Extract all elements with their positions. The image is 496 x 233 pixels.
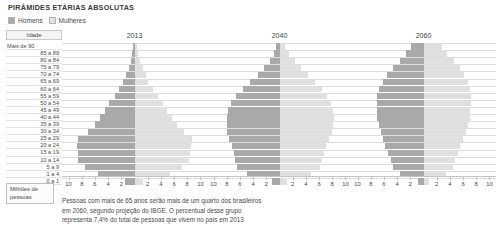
- bar-men: [227, 129, 279, 135]
- bar-women: [135, 136, 192, 142]
- men-half: [351, 114, 424, 121]
- legend-item-men: Homens: [8, 17, 43, 24]
- age-axis-header: Idade: [6, 30, 62, 40]
- women-half: [424, 128, 496, 135]
- bar-women: [135, 107, 168, 113]
- bar-men: [232, 143, 279, 149]
- bar-men: [391, 157, 424, 163]
- axis-tick-label: 10: [197, 181, 203, 187]
- women-half: [424, 100, 496, 107]
- bar-women: [424, 150, 458, 156]
- women-half: [424, 150, 496, 157]
- women-half: [424, 79, 496, 86]
- bar-women: [280, 150, 324, 156]
- women-half: [424, 107, 496, 114]
- men-half: [62, 79, 135, 86]
- axis-tick-label: 4: [159, 181, 162, 187]
- bar-men: [383, 136, 424, 142]
- men-half: [62, 128, 135, 135]
- pyramid-row: [62, 128, 207, 135]
- bar-women: [135, 164, 182, 170]
- men-half: [62, 43, 135, 50]
- bar-women: [280, 121, 333, 127]
- legend-label-women: Mulheres: [59, 17, 86, 24]
- pyramid-row: [62, 86, 207, 93]
- bar-women: [135, 157, 190, 163]
- pyramid-row: [351, 164, 496, 171]
- pyramid-row: [62, 135, 207, 142]
- bar-women: [424, 100, 471, 106]
- women-half: [424, 121, 496, 128]
- pyramid-row: [351, 86, 496, 93]
- bar-women: [280, 164, 321, 170]
- pyramid-row: [207, 50, 352, 57]
- women-half: [280, 157, 353, 164]
- pyramid-row: [351, 64, 496, 71]
- women-half: [280, 114, 353, 121]
- pyramid-row: [62, 79, 207, 86]
- pyramid-row: [62, 50, 207, 57]
- pyramid-row: [207, 71, 352, 78]
- bar-women: [280, 129, 332, 135]
- bar-women: [280, 72, 308, 78]
- men-half: [207, 164, 280, 171]
- axis-tick-label: 8: [225, 181, 228, 187]
- axis-tick-label: 6: [93, 181, 96, 187]
- caption-line-1: Pessoas com mais de 65 anos serão mais d…: [62, 196, 362, 206]
- women-half: [135, 43, 208, 50]
- legend: Homens Mulheres: [8, 17, 86, 24]
- pyramid-row: [62, 142, 207, 149]
- bar-women: [135, 93, 158, 99]
- legend-item-women: Mulheres: [49, 17, 86, 24]
- men-half: [207, 100, 280, 107]
- bar-women: [424, 93, 471, 99]
- pyramid-row: [207, 164, 352, 171]
- pyramid-row: [207, 121, 352, 128]
- panel-title-2060: 2060: [351, 30, 496, 41]
- axis-tick-label: 6: [172, 181, 175, 187]
- women-half: [280, 93, 353, 100]
- axis-tick-label: 10: [354, 181, 360, 187]
- women-half: [135, 71, 208, 78]
- axis-tick-label: 2: [146, 181, 149, 187]
- women-half: [280, 50, 353, 57]
- women-half: [280, 100, 353, 107]
- bar-men: [377, 114, 423, 120]
- women-half: [424, 93, 496, 100]
- bar-men: [393, 65, 423, 71]
- age-label: 80 a 84: [6, 57, 62, 64]
- age-label: 35 a 39: [6, 121, 62, 128]
- bar-men: [78, 150, 135, 156]
- bar-men: [379, 121, 424, 127]
- pyramid-row: [207, 128, 352, 135]
- age-label: Mais de 90: [6, 43, 62, 50]
- bar-men: [234, 150, 279, 156]
- women-half: [135, 128, 208, 135]
- bar-women: [280, 79, 316, 85]
- bar-women: [424, 143, 461, 149]
- men-half: [207, 50, 280, 57]
- axis-tick-label: 4: [107, 181, 110, 187]
- age-label: 55 a 59: [6, 93, 62, 100]
- bar-men: [377, 100, 424, 106]
- pyramid-row: [207, 135, 352, 142]
- women-half: [135, 93, 208, 100]
- caption-line-3: representa 7,4% do total de pessoas que …: [62, 215, 362, 225]
- men-half: [62, 107, 135, 114]
- bar-men: [100, 114, 134, 120]
- men-half: [351, 64, 424, 71]
- bar-women: [135, 150, 190, 156]
- age-label: 50 a 54: [6, 100, 62, 107]
- pyramid-row: [62, 164, 207, 171]
- men-half: [207, 142, 280, 149]
- men-half: [62, 114, 135, 121]
- women-half: [135, 100, 208, 107]
- age-label: 40 a 44: [6, 114, 62, 121]
- men-half: [351, 100, 424, 107]
- men-half: [207, 43, 280, 50]
- bar-men: [78, 157, 135, 163]
- pyramid-row: [62, 107, 207, 114]
- women-half: [280, 64, 353, 71]
- men-half: [62, 86, 135, 93]
- bar-women: [280, 86, 322, 92]
